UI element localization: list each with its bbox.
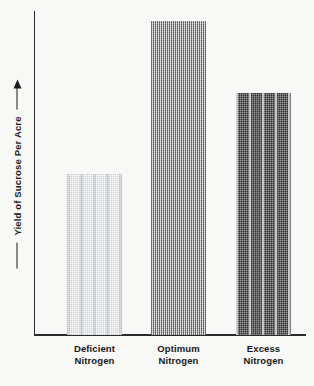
x-tick-label-line2: Nitrogen: [134, 355, 224, 367]
x-tick-label-line1: Deficient: [74, 343, 115, 354]
x-tick-label-line1: Excess: [247, 343, 280, 354]
x-tick-label-line1: Optimum: [157, 343, 199, 354]
bar-chart-figure: Yield of Sucrose Per Acre Deficient Nitr…: [0, 0, 314, 386]
bar-deficient-nitrogen: [67, 174, 122, 335]
plot-area: [0, 0, 314, 386]
x-tick-label-line2: Nitrogen: [219, 355, 309, 367]
x-tick-label-optimum-nitrogen: Optimum Nitrogen: [134, 343, 224, 366]
x-tick-label-deficient-nitrogen: Deficient Nitrogen: [50, 343, 140, 366]
bar-optimum-nitrogen: [151, 21, 206, 335]
x-tick-label-excess-nitrogen: Excess Nitrogen: [219, 343, 309, 366]
bar-excess-nitrogen: [236, 93, 291, 335]
x-tick-label-line2: Nitrogen: [50, 355, 140, 367]
